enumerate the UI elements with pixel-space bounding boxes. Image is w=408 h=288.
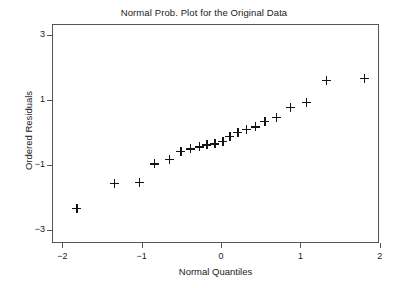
data-point: [186, 144, 195, 153]
data-point: [322, 76, 331, 85]
plot-area: [52, 24, 379, 243]
x-tick-label: 1: [285, 251, 315, 261]
data-point: [360, 74, 369, 83]
x-axis-title: Normal Quantiles: [52, 266, 379, 277]
y-tick-label: −1: [5, 159, 45, 169]
data-point: [135, 178, 144, 187]
x-tick-label: −2: [47, 251, 77, 261]
y-axis-title: Ordered Residuals: [23, 51, 34, 211]
x-tick-mark: [62, 243, 63, 248]
data-point: [260, 117, 269, 126]
y-tick-label: 1: [5, 94, 45, 104]
x-tick-label: 0: [206, 251, 236, 261]
chart-screenshot: Normal Prob. Plot for the Original Data …: [0, 0, 408, 288]
data-point: [165, 155, 174, 164]
scatter-series: [53, 25, 378, 242]
data-point: [110, 179, 119, 188]
data-point: [150, 159, 159, 168]
data-point: [176, 147, 185, 156]
data-point: [72, 204, 81, 213]
data-point: [272, 113, 281, 122]
x-tick-mark: [221, 243, 222, 248]
data-point: [251, 122, 260, 131]
data-point: [286, 103, 295, 112]
data-point: [242, 125, 251, 134]
data-point: [233, 128, 242, 137]
x-tick-label: −1: [127, 251, 157, 261]
y-tick-label: 3: [5, 29, 45, 39]
y-tick-label: −3: [5, 224, 45, 234]
data-point: [302, 98, 311, 107]
x-tick-label: 2: [365, 251, 395, 261]
x-tick-mark: [142, 243, 143, 248]
x-tick-mark: [300, 243, 301, 248]
chart-title: Normal Prob. Plot for the Original Data: [0, 7, 408, 18]
x-tick-mark: [380, 243, 381, 248]
